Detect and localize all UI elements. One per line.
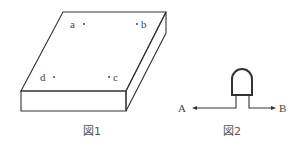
point-d-label: d: [40, 71, 46, 83]
arrow-left-icon: [192, 106, 197, 110]
point-a-dot: [83, 23, 85, 25]
led-right-lead: [249, 95, 273, 108]
point-c-label: c: [113, 71, 118, 83]
plate-front-face: [21, 91, 126, 111]
figure2-led: [195, 69, 273, 108]
diagram-canvas: a b d c 図1 A B 図2: [0, 0, 307, 147]
led-body-icon: [232, 69, 252, 95]
arrow-right-icon: [271, 106, 276, 110]
point-b-label: b: [141, 18, 147, 30]
point-c-dot: [108, 76, 110, 78]
figure1-caption: 図1: [83, 125, 101, 138]
figure1-points: [53, 23, 138, 78]
terminal-a-label: A: [178, 102, 186, 114]
point-a-label: a: [70, 18, 75, 30]
point-b-dot: [136, 23, 138, 25]
point-d-dot: [53, 76, 55, 78]
terminal-b-label: B: [279, 102, 286, 114]
led-left-lead: [195, 95, 236, 108]
figure2-caption: 図2: [223, 125, 241, 138]
